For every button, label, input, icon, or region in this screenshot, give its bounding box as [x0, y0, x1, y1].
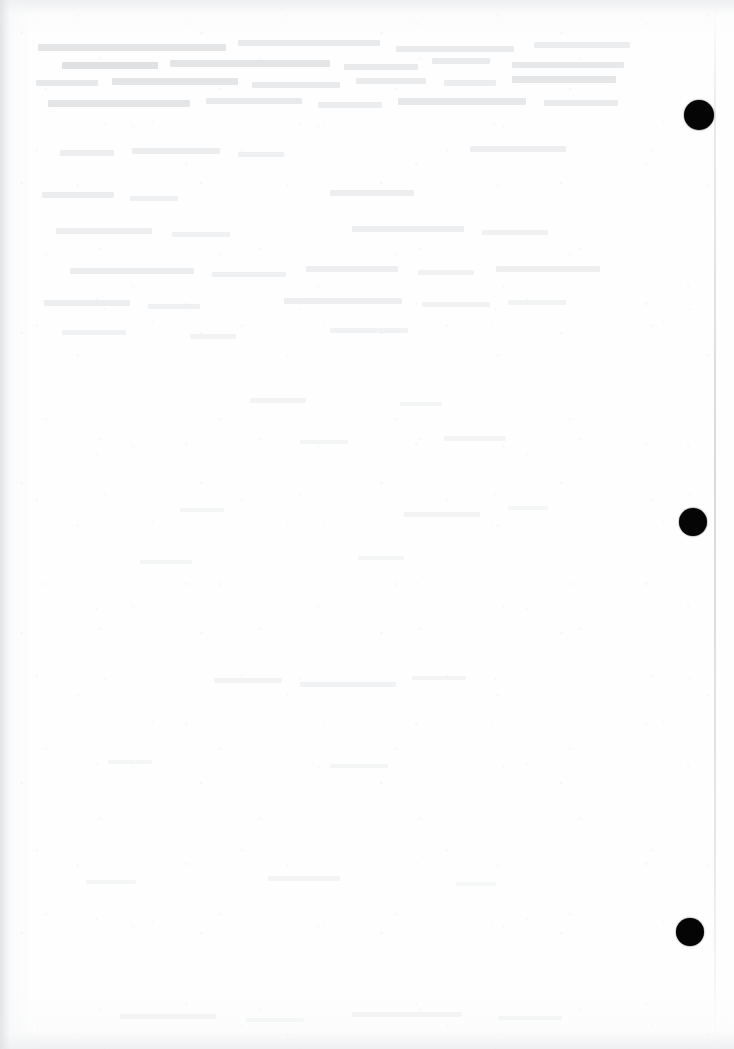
- scanned-page: [0, 0, 734, 1049]
- registration-mark-2: [679, 508, 707, 536]
- registration-mark-1: [684, 100, 714, 130]
- registration-mark-3: [676, 918, 704, 946]
- paper-background: [0, 0, 734, 1049]
